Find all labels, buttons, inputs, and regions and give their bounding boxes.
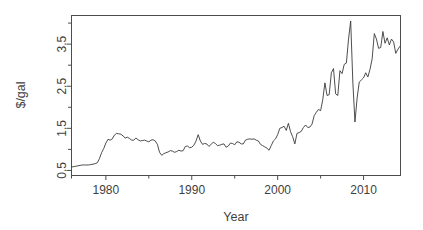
x-tick-label: 2010 xyxy=(350,183,377,197)
x-axis-title: Year xyxy=(223,210,248,224)
x-tick-label: 1980 xyxy=(93,183,120,197)
y-tick-label: 0.5 xyxy=(56,162,70,179)
y-tick-label: 3.5 xyxy=(56,35,70,52)
gasoline-price-line-chart: 1980199020002010 0.51.52.53.5 Year $/gal xyxy=(0,0,423,230)
chart-figure: 1980199020002010 0.51.52.53.5 Year $/gal xyxy=(0,0,423,230)
x-tick-label: 2000 xyxy=(264,183,291,197)
y-tick-label: 2.5 xyxy=(56,78,70,95)
x-tick-label: 1990 xyxy=(178,183,205,197)
y-axis-title: $/gal xyxy=(14,81,28,108)
y-tick-label: 1.5 xyxy=(56,120,70,137)
